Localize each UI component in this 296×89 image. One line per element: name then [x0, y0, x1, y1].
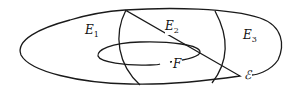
region-label-e1: E1	[85, 24, 99, 39]
region-e3-name: E	[243, 28, 252, 42]
region-e3-sub: 3	[252, 35, 257, 44]
diagram-canvas: E1 E2 E3 F ℰ	[0, 0, 296, 89]
divider-e1-e2	[119, 10, 140, 85]
region-label-e3: E3	[243, 29, 257, 44]
region-e2-name: E	[165, 19, 174, 33]
inner-set-f	[98, 42, 200, 65]
region-label-e2: E2	[165, 20, 179, 35]
divider-e2-e3	[212, 11, 225, 83]
inner-set-label: F	[172, 58, 182, 70]
region-e1-name: E	[85, 23, 94, 37]
outer-set-label: ℰ	[243, 69, 252, 81]
region-e2-sub: 2	[174, 26, 179, 35]
region-e1-sub: 1	[94, 30, 99, 39]
